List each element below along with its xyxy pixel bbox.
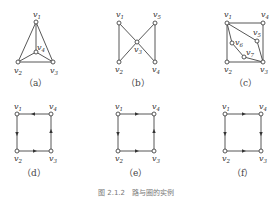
panel-b	[117, 21, 157, 64]
graph-figure: v1 v4 v2 v3 （a） v1 v5 v3 v2 v4 （b）	[0, 0, 280, 197]
panel-e	[116, 112, 156, 153]
vertex-label-c-v4: v4	[261, 10, 270, 20]
vertex-label-b-v2: v2	[115, 65, 124, 75]
vertex-label-d-v4: v4	[49, 102, 58, 112]
vertex-label-f-v4: v4	[259, 102, 268, 112]
vertex-label-f-v2: v2	[222, 154, 231, 164]
vertex-label-f-v3: v3	[259, 154, 268, 164]
vertex-label-e-v2: v2	[115, 154, 124, 164]
vertex-label-b-v1: v1	[116, 10, 124, 20]
panel-label-a: （a）	[24, 78, 47, 88]
vertex-label-b-v4: v4	[152, 65, 161, 75]
vertex-label-b-v5: v5	[153, 10, 162, 20]
figure-caption: 图 2.1.2 路与圈的实例	[98, 188, 174, 197]
vertex-label-c-v7: v7	[246, 48, 255, 58]
vertex-label-c-v1: v1	[224, 10, 232, 20]
vertex-label-a-v1: v1	[33, 10, 41, 20]
vertex-label-a-v3: v3	[50, 66, 59, 76]
panel-c	[225, 21, 265, 64]
panel-d	[15, 112, 53, 153]
vertex-label-d-v1: v1	[14, 102, 22, 112]
panel-f	[223, 112, 263, 153]
panel-label-f: （f）	[232, 168, 253, 178]
panel-label-c: （c）	[234, 78, 257, 88]
vertex-label-a-v2: v2	[14, 66, 23, 76]
vertex-label-e-v4: v4	[152, 102, 161, 112]
vertex-label-d-v2: v2	[14, 154, 23, 164]
vertex-label-f-v1: v1	[222, 102, 230, 112]
vertex-label-e-v1: v1	[115, 102, 123, 112]
panel-label-b: （b）	[126, 78, 150, 88]
panel-a	[16, 20, 55, 64]
vertex-label-c-v6: v6	[235, 38, 244, 48]
vertex-label-a-v4: v4	[37, 43, 46, 53]
vertex-label-c-v3: v3	[260, 65, 269, 75]
panel-label-e: （e）	[124, 168, 147, 178]
vertex-label-c-v5: v5	[253, 28, 262, 38]
panel-label-d: （d）	[22, 168, 46, 178]
vertex-label-c-v2: v2	[224, 65, 233, 75]
vertex-label-e-v3: v3	[152, 154, 161, 164]
vertex-label-d-v3: v3	[49, 154, 58, 164]
